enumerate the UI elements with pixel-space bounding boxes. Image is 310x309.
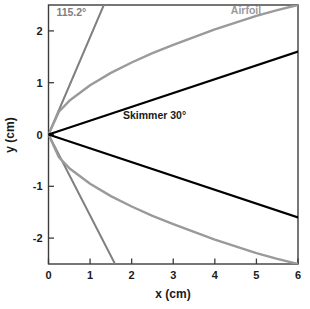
x-tick-label: 0 xyxy=(45,269,51,281)
y-tick-label: 0 xyxy=(36,129,42,141)
y-tick-label: -2 xyxy=(33,232,43,244)
chart-background xyxy=(0,0,310,309)
series-annotation: Skimmer 30° xyxy=(123,109,186,121)
x-tick-label: 3 xyxy=(170,269,176,281)
x-tick-label: 4 xyxy=(212,269,219,281)
chart-container: 0123456 210-1-2 x (cm) y (cm) 115.2°Airf… xyxy=(0,0,310,309)
shock-profile-chart: 0123456 210-1-2 x (cm) y (cm) 115.2°Airf… xyxy=(0,0,310,309)
series-annotation: 115.2° xyxy=(56,6,86,18)
x-tick-label: 6 xyxy=(295,269,301,281)
x-tick-label: 1 xyxy=(87,269,93,281)
x-tick-label: 5 xyxy=(253,269,259,281)
series-annotation: Airfoil xyxy=(231,4,261,16)
y-tick-label: 2 xyxy=(36,25,42,37)
y-tick-label: 1 xyxy=(36,77,42,89)
x-tick-label: 2 xyxy=(129,269,135,281)
y-axis-title: y (cm) xyxy=(3,117,17,152)
y-tick-label: -1 xyxy=(33,180,43,192)
x-axis-title: x (cm) xyxy=(155,287,190,301)
